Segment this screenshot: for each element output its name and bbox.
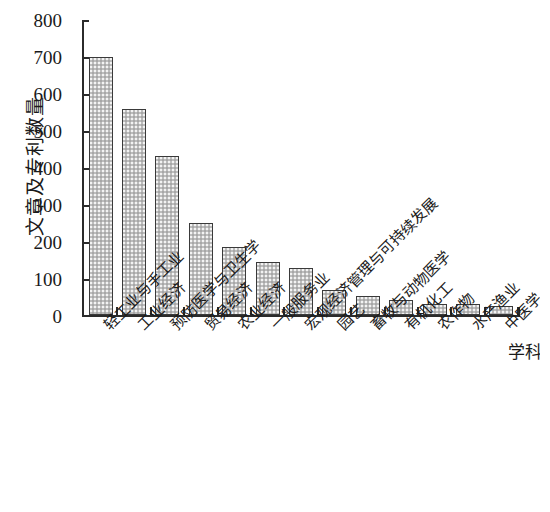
y-tick-label: 500 (16, 122, 62, 141)
bar-chart-figure: 文章及专利数量 800 700 600 500 400 300 200 100 … (0, 0, 550, 512)
y-tick-label: 800 (16, 11, 62, 30)
y-tick-label: 200 (16, 233, 62, 252)
y-tick-label: 300 (16, 196, 62, 215)
y-tick-label: 400 (16, 159, 62, 178)
y-tick-label-group: 800 700 600 500 400 300 200 100 0 (16, 0, 62, 330)
y-tick-mark (82, 20, 89, 22)
bar (89, 57, 113, 315)
x-axis-title: 学科 (508, 338, 542, 363)
y-tick-label: 700 (16, 48, 62, 67)
figure-right-clip (540, 0, 550, 512)
y-tick-label: 600 (16, 85, 62, 104)
y-tick-label: 100 (16, 270, 62, 289)
y-tick-label: 0 (16, 307, 62, 326)
